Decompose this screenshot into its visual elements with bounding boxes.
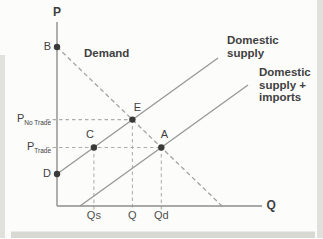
price-no-trade-base: P — [17, 112, 24, 124]
domestic-supply-label-line2: supply — [227, 47, 265, 59]
figure-supply-demand-trade: P Q B D E C A Demand Domestic supply Dom… — [0, 0, 323, 238]
tick-q: Q — [128, 209, 137, 221]
point-d-dot — [54, 171, 60, 177]
price-no-trade-sub: No Trade — [24, 119, 51, 126]
domestic-supply-imports-label-line1: Domestic — [259, 66, 311, 78]
page-edge-bottom — [11, 232, 315, 239]
point-d-label: D — [43, 167, 51, 179]
page-edge-left — [0, 55, 5, 238]
demand-label: Demand — [84, 47, 129, 59]
diagram-canvas: P Q B D E C A Demand Domestic supply Dom… — [0, 0, 323, 238]
point-b-label: B — [44, 40, 51, 52]
domestic-supply-label-line1: Domestic — [227, 34, 279, 46]
point-a-dot — [158, 144, 164, 150]
x-axis-label: Q — [267, 198, 276, 212]
domestic-supply-imports-label-line2: supply + — [259, 79, 306, 91]
domestic-supply-imports-label-line3: imports — [259, 91, 301, 103]
point-e-label: E — [134, 101, 141, 113]
y-axis-label: P — [53, 5, 61, 19]
point-b-dot — [54, 44, 60, 50]
point-c-label: C — [86, 128, 94, 140]
tick-qs: Qs — [87, 209, 102, 221]
page-edge-right — [317, 0, 323, 238]
tick-qd: Qd — [154, 209, 169, 221]
point-a-label: A — [161, 128, 169, 140]
price-trade-base: P — [27, 140, 34, 152]
point-c-dot — [91, 144, 97, 150]
point-e-dot — [129, 116, 135, 122]
price-trade-sub: Trade — [34, 147, 51, 154]
